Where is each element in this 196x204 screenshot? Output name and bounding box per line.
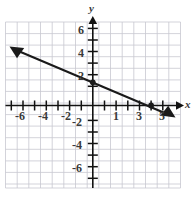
- y-tick-label-6: 6: [78, 24, 84, 36]
- y-tick-label-neg4: -4: [72, 139, 82, 151]
- x-axis-label: x: [185, 99, 191, 110]
- coordinate-plane-figure: y x -6 -4 -2 1 3 5 6 4 2 -2 -4 -6: [0, 0, 196, 204]
- y-tick-label-neg2: -2: [72, 116, 82, 128]
- y-tick-label-2: 2: [78, 70, 84, 82]
- x-tick-label-neg6: -6: [15, 110, 25, 122]
- x-tick-label-neg2: -2: [61, 110, 71, 122]
- y-axis: [89, 16, 98, 188]
- x-tick-label-1: 1: [113, 110, 119, 122]
- graph-canvas: [0, 0, 196, 204]
- y-tick-label-4: 4: [78, 47, 84, 59]
- point-y-intercept: [90, 79, 96, 85]
- y-axis-label: y: [89, 3, 94, 14]
- x-tick-label-neg4: -4: [38, 110, 48, 122]
- x-tick-label-3: 3: [136, 110, 142, 122]
- point-x-intercept: [148, 103, 154, 109]
- y-tick-label-neg6: -6: [72, 162, 82, 174]
- x-tick-label-5: 5: [159, 110, 165, 122]
